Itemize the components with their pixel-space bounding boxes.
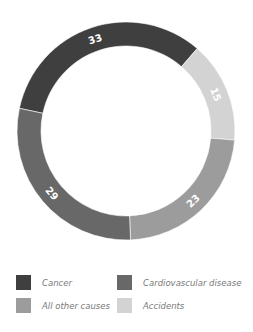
legend-label: Cardiovascular disease bbox=[143, 278, 241, 288]
donut-segment-cardiovascular-disease bbox=[17, 108, 131, 240]
legend-swatch bbox=[117, 275, 132, 290]
donut-segment-all-other-causes bbox=[130, 138, 235, 240]
legend-label: All other causes bbox=[42, 301, 110, 311]
legend-item-accidents: Accidents bbox=[117, 298, 184, 313]
legend-item-other-causes: All other causes bbox=[16, 298, 110, 313]
donut-chart: 33152329 bbox=[0, 0, 253, 260]
legend-swatch bbox=[16, 298, 31, 313]
legend-label: Accidents bbox=[143, 301, 184, 311]
donut-segment-accidents bbox=[182, 48, 235, 140]
donut-segment-cancer bbox=[19, 22, 197, 113]
legend-swatch bbox=[16, 275, 31, 290]
legend-swatch bbox=[117, 298, 132, 313]
legend-item-cardiovascular: Cardiovascular disease bbox=[117, 275, 241, 290]
legend-label: Cancer bbox=[42, 278, 72, 288]
legend-item-cancer: Cancer bbox=[16, 275, 72, 290]
